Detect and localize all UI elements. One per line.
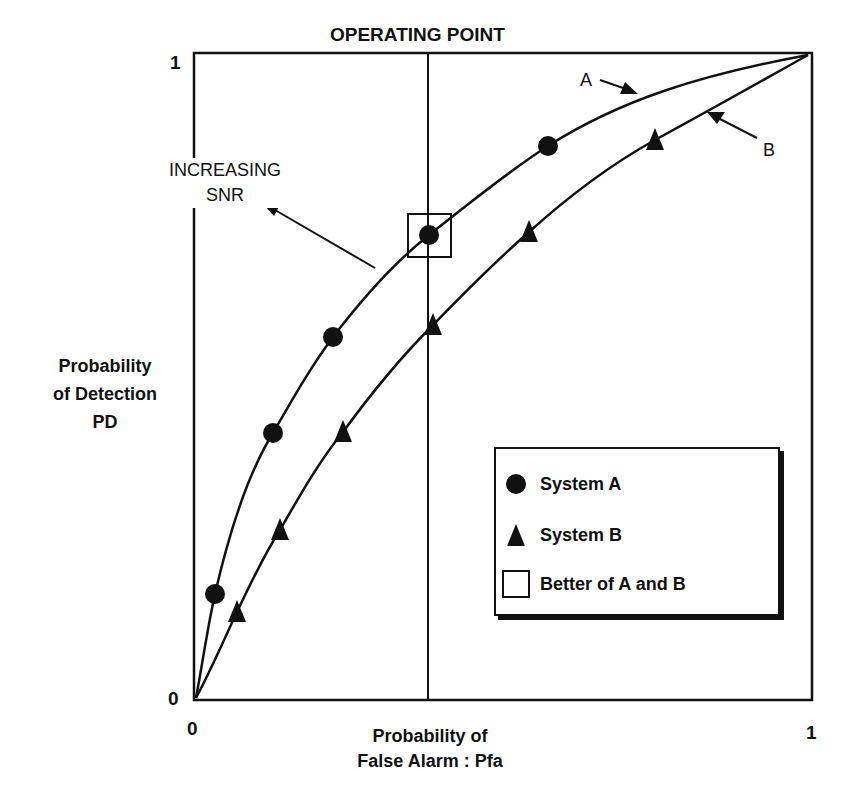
- x-tick-0: 0: [187, 718, 198, 740]
- snr-line: INCREASING: [150, 158, 300, 183]
- system-b-point: [228, 600, 246, 622]
- legend-item-system-b: System B: [496, 520, 622, 550]
- curve-a-label: A: [580, 70, 592, 91]
- y-axis-label-line: PD: [20, 408, 190, 436]
- square-marker-icon: [496, 569, 536, 599]
- increasing-snr-arrow: [262, 203, 375, 268]
- y-tick-1: 1: [170, 52, 181, 74]
- y-axis-label: Probability of Detection PD: [20, 352, 190, 436]
- y-tick-0: 0: [168, 688, 179, 710]
- snr-line: SNR: [150, 183, 300, 208]
- triangle-marker-icon: [496, 522, 536, 548]
- system-a-point: [419, 225, 439, 245]
- legend-label: System A: [540, 474, 621, 495]
- chart-title: OPERATING POINT: [330, 24, 505, 46]
- legend-item-better: Better of A and B: [496, 569, 686, 599]
- system-a-point: [538, 136, 558, 156]
- system-a-point: [205, 584, 225, 604]
- system-a-point: [263, 423, 283, 443]
- system-a-point: [323, 327, 343, 347]
- system-b-point: [520, 220, 538, 242]
- curve-b-arrow: [707, 112, 757, 138]
- legend-label: System B: [540, 525, 622, 546]
- circle-marker-icon: [496, 472, 536, 496]
- y-axis-label-line: Probability: [20, 352, 190, 380]
- system-b-point: [646, 128, 664, 150]
- curve-b-label: B: [763, 140, 775, 161]
- legend-item-system-a: System A: [496, 469, 621, 499]
- legend-label: Better of A and B: [540, 574, 686, 595]
- x-axis-label-line: False Alarm : Pfa: [330, 749, 530, 774]
- curve-a-arrow: [600, 80, 638, 94]
- x-tick-1: 1: [806, 722, 817, 744]
- y-axis-label-line: of Detection: [20, 380, 190, 408]
- legend: System A System B Better of A and B: [494, 447, 780, 616]
- system-b-point: [424, 313, 442, 335]
- x-axis-label-line: Probability of: [330, 724, 530, 749]
- increasing-snr-annotation: INCREASING SNR: [150, 158, 300, 208]
- x-axis-label: Probability of False Alarm : Pfa: [330, 724, 530, 774]
